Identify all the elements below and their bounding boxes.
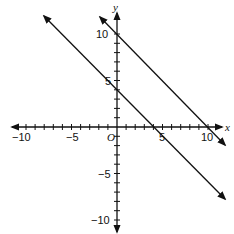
y-tick-label-neg5: −5 — [98, 168, 111, 180]
x-tick-label-5: 5 — [159, 131, 165, 143]
y-tick-label-neg10: −10 — [91, 214, 110, 226]
y-tick-label-5: 5 — [105, 75, 111, 87]
graph-svg: x y O −10 −5 5 10 10 5 −5 −10 — [0, 0, 234, 234]
y-axis-label: y — [112, 1, 118, 13]
coordinate-plane: x y O −10 −5 5 10 10 5 −5 −10 — [0, 0, 234, 234]
x-tick-label-neg5: −5 — [66, 131, 79, 143]
x-tick-label-neg10: −10 — [12, 131, 31, 143]
y-tick-label-10: 10 — [96, 28, 108, 40]
x-tick-label-10: 10 — [201, 131, 213, 143]
line-lower — [44, 16, 225, 199]
origin-label: O — [107, 131, 115, 143]
x-axis-label: x — [224, 121, 230, 133]
